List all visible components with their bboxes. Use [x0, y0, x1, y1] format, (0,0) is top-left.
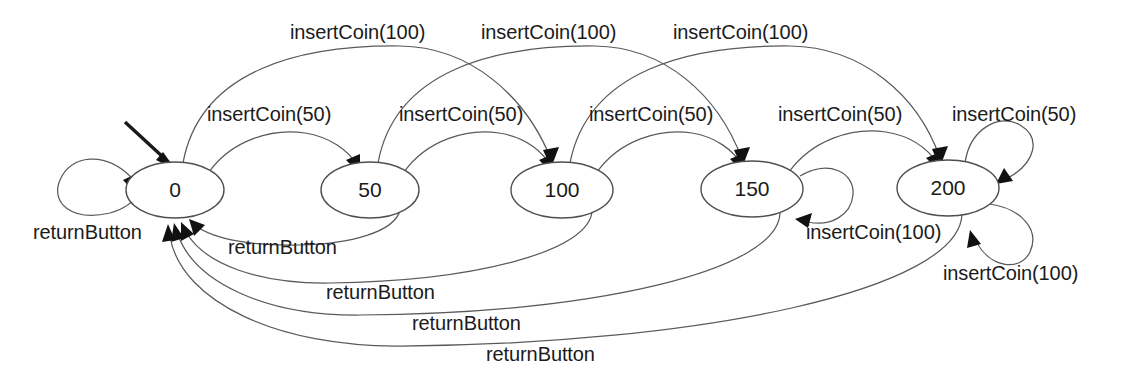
edge-label-insertcoin50-150-to-200: insertCoin(50)	[778, 104, 902, 124]
edge-label-insertcoin100-0-to-100: insertCoin(100)	[290, 22, 425, 42]
state-label-200: 200	[930, 176, 965, 199]
edge-returnbutton-150-to-0	[178, 213, 780, 315]
state-node-100[interactable]: 100	[511, 162, 613, 218]
state-node-150[interactable]: 150	[701, 161, 803, 217]
start-arrow-line	[125, 122, 164, 158]
state-label-100: 100	[544, 178, 579, 201]
edge-insertcoin100-200-self	[977, 204, 1033, 265]
edge-label-returnbutton-0-self: returnButton	[33, 222, 142, 242]
edge-label-insertcoin50-0-to-50: insertCoin(50)	[207, 104, 331, 124]
edge-label-insertcoin100-150-self: insertCoin(100)	[806, 222, 941, 242]
state-node-0[interactable]: 0	[126, 162, 224, 218]
edge-label-returnbutton-50-to-0: returnButton	[228, 237, 337, 257]
state-node-200[interactable]: 200	[897, 160, 999, 216]
edge-label-insertcoin50-50-to-100: insertCoin(50)	[399, 104, 523, 124]
state-machine-diagram: 0 50 100 150 200 insertCoin(100) insertC…	[0, 0, 1133, 376]
edge-label-insertcoin100-200-self: insertCoin(100)	[943, 263, 1078, 283]
edge-label-returnbutton-200-to-0: returnButton	[486, 344, 595, 364]
edge-label-insertcoin50-100-to-150: insertCoin(50)	[589, 104, 713, 124]
edge-insertcoin50-50-to-100	[404, 132, 551, 172]
edge-label-returnbutton-150-to-0: returnButton	[412, 313, 521, 333]
edge-insertcoin50-100-to-150	[597, 132, 742, 172]
state-label-0: 0	[169, 178, 181, 201]
edge-label-returnbutton-100-to-0: returnButton	[326, 282, 435, 302]
edge-label-insertcoin100-100-to-200: insertCoin(100)	[673, 22, 808, 42]
state-label-150: 150	[734, 177, 769, 200]
edge-label-insertcoin50-200-self: insertCoin(50)	[952, 104, 1076, 124]
state-node-50[interactable]: 50	[321, 162, 419, 218]
fsm-canvas: 0 50 100 150 200	[0, 0, 1133, 376]
edge-insertcoin50-0-to-50	[209, 132, 358, 172]
state-label-50: 50	[358, 178, 381, 201]
edge-label-insertcoin100-50-to-150: insertCoin(100)	[481, 22, 616, 42]
